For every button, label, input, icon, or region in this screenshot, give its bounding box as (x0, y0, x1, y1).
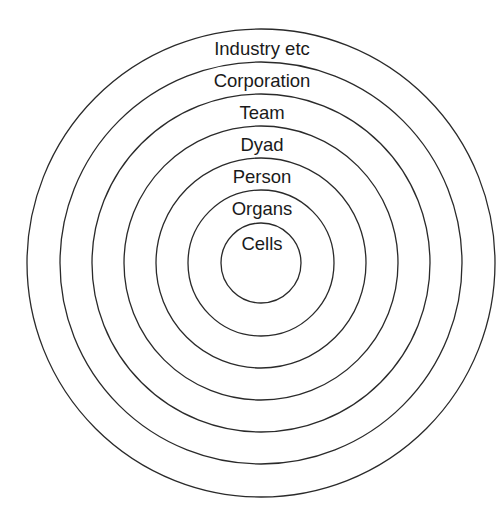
ring-label-organs: Organs (232, 198, 293, 219)
ring-organs: Organs (188, 190, 334, 336)
ring-label-team: Team (239, 102, 284, 123)
ring-label-corporation: Corporation (214, 70, 311, 91)
ring-label-dyad: Dyad (240, 134, 283, 155)
ring-circle-industry (27, 29, 495, 497)
ring-label-industry: Industry etc (214, 38, 310, 59)
concentric-levels-diagram: Industry etc Corporation Team Dyad Perso… (0, 0, 504, 521)
ring-cells: Cells (221, 223, 301, 303)
ring-label-cells: Cells (241, 233, 282, 254)
ring-industry: Industry etc (27, 29, 495, 497)
ring-label-person: Person (233, 166, 292, 187)
